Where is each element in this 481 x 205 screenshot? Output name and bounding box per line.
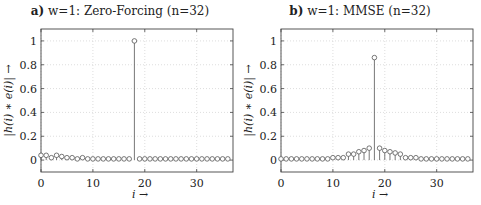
stem-marker [460, 157, 465, 162]
stem-marker [137, 157, 142, 162]
y-tick-label: 0.2 [260, 130, 278, 143]
y-tick-label: 0.4 [20, 106, 38, 119]
stem-marker [294, 157, 299, 162]
chart-title: a) w=1: Zero-Forcing (n=32) [0, 4, 240, 18]
stem-marker [163, 157, 168, 162]
stem-marker [132, 39, 137, 44]
stem-plot-mmse: 00.20.40.60.810102030 [240, 0, 480, 205]
stem-marker [194, 157, 199, 162]
stem-marker [96, 157, 101, 162]
stem-marker [372, 55, 377, 60]
y-tick-label: 1 [270, 35, 277, 48]
stem-marker [205, 157, 210, 162]
stem-marker [153, 157, 158, 162]
stem-marker [226, 157, 231, 162]
stem-marker [80, 155, 85, 160]
stem-marker [174, 157, 179, 162]
stem-marker [310, 157, 315, 162]
stem-marker [336, 155, 341, 160]
stem-marker [341, 155, 346, 160]
stem-marker [445, 157, 450, 162]
stem-marker [398, 152, 403, 157]
stem-marker [210, 157, 215, 162]
x-tick-label: 10 [86, 177, 100, 190]
x-axis-label: i → [110, 188, 170, 201]
stem-marker [434, 157, 439, 162]
y-tick-label: 0.8 [260, 59, 278, 72]
stem-marker [220, 157, 225, 162]
stem-marker [382, 148, 387, 153]
stem-marker [424, 157, 429, 162]
stem-marker [408, 155, 413, 160]
x-tick-label: 0 [278, 177, 285, 190]
stem-marker [393, 151, 398, 156]
stem-marker [351, 152, 356, 157]
plot-frame [281, 29, 473, 172]
y-axis-label: |h(i) ∗ e(i)| → [2, 31, 15, 171]
x-tick-label: 30 [430, 177, 444, 190]
x-tick-label: 0 [38, 177, 45, 190]
stem-marker [106, 157, 111, 162]
stem-marker [189, 157, 194, 162]
stem-marker [455, 157, 460, 162]
stem-marker [362, 148, 367, 153]
x-tick-label: 30 [190, 177, 204, 190]
y-axis-label: |h(i) ∗ e(i)| → [242, 31, 255, 171]
stem-plot-zero-forcing: 00.20.40.60.810102030 [0, 0, 240, 205]
stem-marker [101, 157, 106, 162]
stem-marker [122, 157, 127, 162]
stem-marker [299, 157, 304, 162]
y-tick-label: 0.8 [20, 59, 38, 72]
panel-mmse: 00.20.40.60.810102030 b) w=1: MMSE (n=32… [240, 0, 480, 205]
stem-marker [184, 157, 189, 162]
stem-marker [331, 155, 336, 160]
stem-marker [450, 157, 455, 162]
chart-title: b) w=1: MMSE (n=32) [240, 4, 480, 18]
panel-zero-forcing: 00.20.40.60.810102030 a) w=1: Zero-Forci… [0, 0, 240, 205]
stem-marker [429, 157, 434, 162]
y-tick-label: 0.6 [20, 83, 38, 96]
stem-marker [357, 149, 362, 154]
stem-marker [54, 153, 59, 158]
stem-marker [200, 157, 205, 162]
stem-marker [65, 155, 70, 160]
stem-marker [75, 157, 80, 162]
stem-marker [70, 155, 75, 160]
stem-marker [85, 157, 90, 162]
stem-marker [466, 157, 471, 162]
stem-marker [403, 155, 408, 160]
stem-marker [148, 157, 153, 162]
stem-marker [44, 153, 49, 158]
stem-marker [49, 155, 54, 160]
x-tick-label: 10 [326, 177, 340, 190]
stem-marker [279, 157, 284, 162]
y-tick-label: 0 [30, 154, 37, 167]
x-axis-label: i → [350, 188, 410, 201]
stem-marker [419, 157, 424, 162]
stem-marker [325, 157, 330, 162]
stem-marker [111, 157, 116, 162]
stem-marker [346, 152, 351, 157]
stem-marker [215, 157, 220, 162]
plot-frame [41, 29, 233, 172]
stem-marker [315, 157, 320, 162]
stem-marker [59, 154, 64, 159]
stem-marker [377, 146, 382, 151]
stem-marker [367, 146, 372, 151]
stem-marker [158, 157, 163, 162]
stem-marker [91, 157, 96, 162]
y-tick-label: 0 [270, 154, 277, 167]
y-tick-label: 1 [30, 35, 37, 48]
stem-marker [127, 157, 132, 162]
stem-marker [440, 157, 445, 162]
stem-marker [39, 153, 44, 158]
stem-marker [305, 157, 310, 162]
y-tick-label: 0.6 [260, 83, 278, 96]
stem-marker [168, 157, 173, 162]
stem-marker [117, 157, 122, 162]
stem-marker [320, 157, 325, 162]
stem-marker [142, 157, 147, 162]
stem-marker [284, 157, 289, 162]
y-tick-label: 0.4 [260, 106, 278, 119]
stem-marker [388, 149, 393, 154]
